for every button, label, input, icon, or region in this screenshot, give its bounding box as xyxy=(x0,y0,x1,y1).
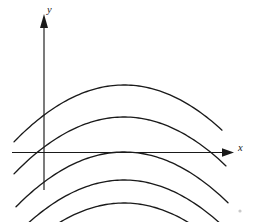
figure-canvas: y x xyxy=(0,0,253,222)
y-axis-group xyxy=(40,14,48,190)
parabola-curve-2 xyxy=(14,117,226,174)
parabola-curve-5 xyxy=(30,203,226,222)
x-axis-label: x xyxy=(237,142,243,153)
y-axis-arrowhead xyxy=(40,14,48,28)
parabola-curve-4 xyxy=(22,180,228,222)
parabola-family-figure: y x xyxy=(0,0,253,222)
y-axis-label: y xyxy=(46,4,52,15)
parabola-curves-group xyxy=(14,85,228,222)
page-corner-speck-icon xyxy=(238,209,241,212)
x-axis-arrowhead xyxy=(222,148,234,157)
parabola-curve-1 xyxy=(14,85,222,142)
